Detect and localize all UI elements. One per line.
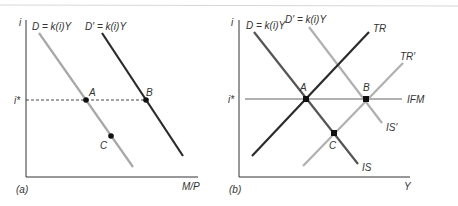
panel-b-point-A-label: A [299,82,307,93]
figure: i M/P (a) i* D = k(i)Y D′ = k(i)Y A B C … [0,0,458,206]
panel-a-y-axis-label: i [19,17,22,28]
panel-a-caption: (a) [16,184,28,195]
panel-b-point-C [331,130,337,136]
panel-b-curve-ISprime-label: IS′ [386,122,398,133]
panel-a-curve-D-label: D = k(i)Y [32,21,73,32]
panel-b-curve-IFM-label: IFM [407,94,425,105]
panel-a-istar-label: i* [14,95,21,106]
panel-a-point-C [108,133,114,139]
panel-b-caption: (b) [229,184,241,195]
panel-b-curve-TR-label: TR [373,23,386,34]
top-rule [0,5,458,6]
panel-b-curve-IS-label: IS [362,162,372,173]
panel-a-curve-Dprime-label: D′ = k(i)Y [85,21,127,32]
panel-a-x-axis-label: M/P [182,181,200,192]
panel-b-point-B [363,96,369,102]
panel-a: i M/P (a) i* D = k(i)Y D′ = k(i)Y A B C [14,17,200,195]
panel-b-x-axis-label: Y [404,181,412,192]
panel-b-point-B-label: B [363,82,370,93]
panel-b: i Y (b) i* IFM D′ = k(i)Y IS′ TR′ D = k(… [228,14,425,195]
panel-a-point-B-label: B [146,87,153,98]
panel-b-curve-TRprime-label: TR′ [400,51,416,62]
panel-b-curve-D-label: D = k(i)Y [246,20,287,31]
panel-a-point-A-label: A [88,87,96,98]
panel-a-point-B [143,97,149,103]
panel-b-point-C-label: C [329,140,337,151]
panel-a-point-A [83,97,89,103]
panel-a-curve-Dprime [102,33,183,156]
panel-b-istar-label: i* [228,94,235,105]
panel-b-point-A [303,96,309,102]
panel-a-point-C-label: C [100,140,108,151]
panel-b-curve-ISprime [309,27,382,123]
panel-b-y-axis-label: i [231,17,234,28]
panel-b-curve-Dprime-label: D′ = k(i)Y [285,14,327,25]
